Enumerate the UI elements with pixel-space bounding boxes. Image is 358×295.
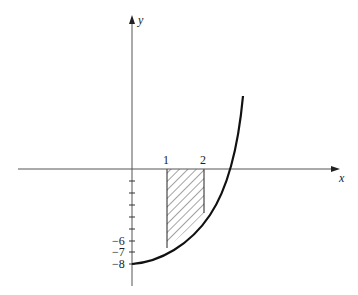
x-tick-label-1: 1	[163, 153, 169, 167]
y-axis-arrow-icon	[129, 15, 135, 24]
y-tick-label-neg8: −8	[112, 257, 125, 271]
y-axis-label: y	[137, 13, 144, 27]
x-tick-label-2: 2	[200, 153, 206, 167]
integral-diagram: y x 1 2 −6 −7 −8	[0, 0, 358, 295]
x-axis-label: x	[338, 171, 345, 185]
y-axis	[129, 15, 135, 286]
